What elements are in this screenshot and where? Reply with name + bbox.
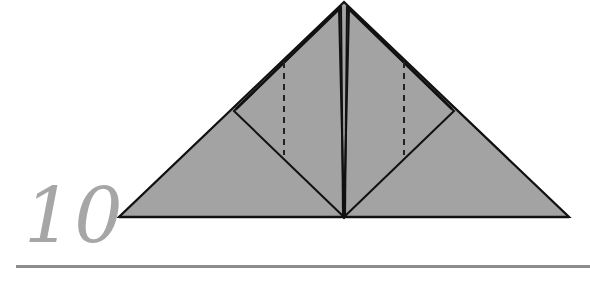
divider-rule [16,265,590,268]
step-number: 10 [24,178,125,254]
